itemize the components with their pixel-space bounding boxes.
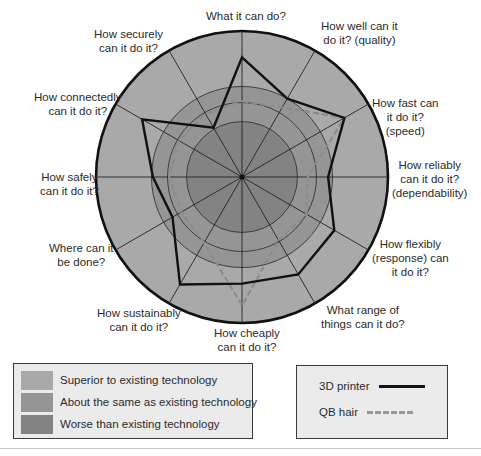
band-legend: Superior to existing technology About th… xyxy=(13,363,253,439)
centre-point xyxy=(240,175,245,180)
swatch-worse xyxy=(21,415,53,434)
solid-line-sample xyxy=(379,385,425,388)
legend-label-3d-printer: 3D printer xyxy=(319,380,370,392)
swatch-same xyxy=(21,393,53,412)
legend-item-worse: Worse than existing technology xyxy=(21,414,220,434)
divider-line xyxy=(0,448,481,449)
legend-item-3d-printer: 3D printer xyxy=(319,380,425,392)
axis-label-capability: What it can do? xyxy=(206,9,286,23)
axis-label-range: What range ofthings can it do? xyxy=(321,303,405,331)
legend-label-same: About the same as existing technology xyxy=(60,396,257,408)
axis-label-speed: How fast canit do it?(speed) xyxy=(372,96,438,138)
axis-label-location: Where can itbe done? xyxy=(49,241,114,269)
axis-label-flexibility: How flexibly(response) canit do it? xyxy=(372,237,449,279)
axis-label-security: How securelycan it do it? xyxy=(94,27,163,55)
legend-label-qb-hair: QB hair xyxy=(319,406,358,418)
swatch-superior xyxy=(21,371,53,390)
axis-label-connectedness: How connectedlycan it do it? xyxy=(34,90,122,118)
axis-label-safety: How safelycan it do it? xyxy=(40,170,99,198)
legend-item-superior: Superior to existing technology xyxy=(21,370,217,390)
series-legend: 3D printer QB hair xyxy=(296,365,448,439)
axis-label-dependability: How reliablycan it do it?(dependability) xyxy=(392,158,467,200)
legend-label-superior: Superior to existing technology xyxy=(60,374,217,386)
axis-label-cheapness: How cheaplycan it do it? xyxy=(214,326,280,354)
axis-label-sustainability: How sustainablycan it do it? xyxy=(97,306,181,334)
axis-label-quality: How well can itdo it? (quality) xyxy=(321,19,398,47)
legend-item-same: About the same as existing technology xyxy=(21,392,257,412)
legend-label-worse: Worse than existing technology xyxy=(60,418,220,430)
legend-item-qb-hair: QB hair xyxy=(319,406,413,418)
dashed-line-sample xyxy=(367,411,413,414)
